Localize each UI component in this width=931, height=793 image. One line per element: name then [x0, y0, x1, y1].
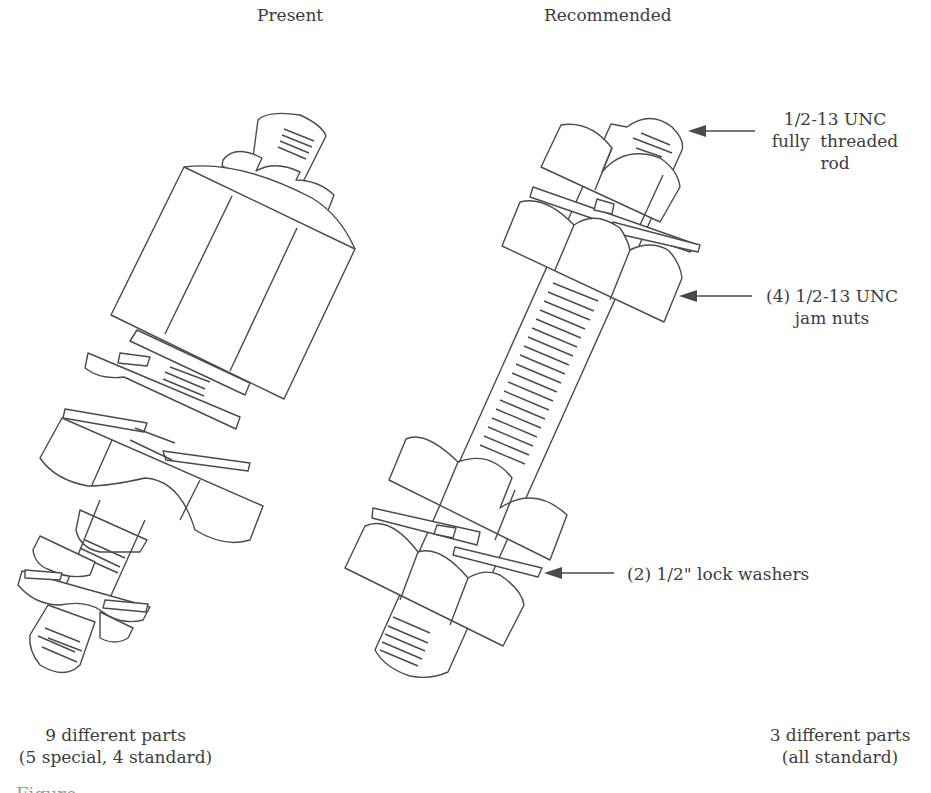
present-assembly	[18, 113, 355, 672]
callout-arrow-lock-washers-icon	[544, 567, 614, 579]
callout-jam-nuts-line-1: (4) 1/2-13 UNC	[752, 285, 912, 307]
callout-lock-washers-label: (2) 1/2" lock washers	[627, 563, 809, 585]
present-summary-line-1: 9 different parts	[8, 724, 223, 746]
callout-rod-line-1: 1/2-13 UNC	[760, 108, 910, 130]
callout-rod-line-3: rod	[760, 152, 910, 174]
figure-caption-partial: Figure	[16, 784, 77, 793]
callout-arrow-jam-nuts-icon	[679, 290, 752, 302]
present-collar-inner	[118, 353, 150, 366]
present-stud-bottom	[30, 605, 95, 673]
callout-jam-nuts-label: (4) 1/2-13 UNC jam nuts	[752, 285, 912, 329]
callout-jam-nuts-line-2: jam nuts	[752, 307, 912, 329]
recommended-summary-line-1: 3 different parts	[750, 724, 930, 746]
present-summary-line-2: (5 special, 4 standard)	[8, 746, 223, 768]
callout-rod-label: 1/2-13 UNC fully threaded rod	[760, 108, 910, 174]
callout-arrow-rod-icon	[688, 125, 755, 137]
recommended-summary-line-2: (all standard)	[750, 746, 930, 768]
present-summary: 9 different parts (5 special, 4 standard…	[8, 724, 223, 768]
recommended-summary: 3 different parts (all standard)	[750, 724, 930, 768]
callout-rod-line-2: fully threaded	[760, 130, 910, 152]
present-shank-step	[76, 510, 147, 552]
recommended-assembly	[345, 119, 755, 678]
present-large-nut	[40, 418, 263, 542]
